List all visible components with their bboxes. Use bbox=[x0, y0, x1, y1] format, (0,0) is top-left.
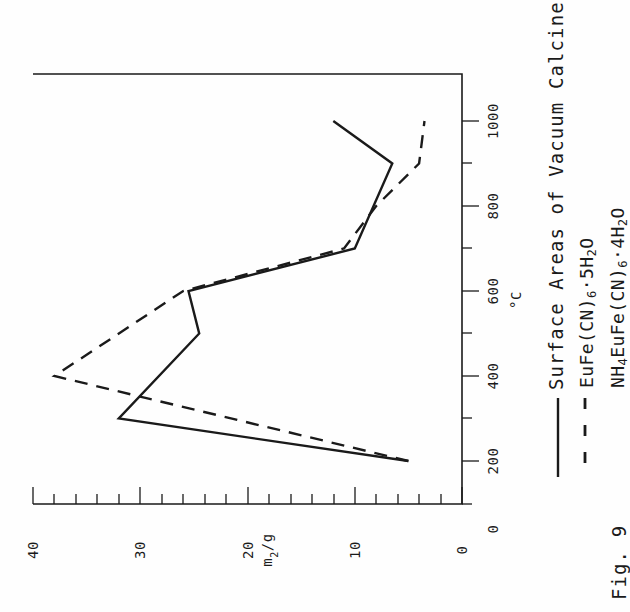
svg-text:20: 20 bbox=[240, 541, 256, 559]
svg-text:m2/g: m2/g bbox=[259, 533, 280, 567]
legend-label-solid: EuFe(CN)6·5H2O bbox=[576, 238, 599, 388]
svg-text:400: 400 bbox=[485, 362, 501, 389]
value-axis-title: m2/g bbox=[259, 533, 280, 567]
svg-text:800: 800 bbox=[485, 192, 501, 219]
value-axis-ticks bbox=[33, 487, 462, 504]
svg-text:30: 30 bbox=[132, 541, 148, 559]
temp-axis-title: °C bbox=[508, 291, 524, 309]
plot-frame bbox=[33, 74, 462, 504]
svg-text:600: 600 bbox=[485, 277, 501, 304]
series-solid bbox=[119, 121, 409, 461]
svg-text:1000: 1000 bbox=[485, 103, 501, 139]
value-axis-labels: 40 30 20 10 0 bbox=[25, 541, 470, 559]
svg-text:°C: °C bbox=[508, 291, 524, 309]
svg-text:40: 40 bbox=[25, 541, 41, 559]
svg-text:200: 200 bbox=[485, 447, 501, 474]
svg-text:0: 0 bbox=[485, 524, 501, 533]
series-dashed bbox=[54, 121, 424, 461]
svg-text:0: 0 bbox=[454, 545, 470, 554]
figure-number: Fig. 9 bbox=[608, 525, 630, 600]
svg-text:10: 10 bbox=[347, 541, 363, 559]
legend-label-dashed: NH4EuFe(CN)6·4H2O bbox=[607, 207, 630, 388]
temp-axis-ticks bbox=[462, 121, 479, 504]
temp-axis-labels: 1000 800 600 400 200 0 bbox=[485, 103, 501, 534]
figure-title: Surface Areas of Vacuum Calcines bbox=[545, 0, 567, 390]
